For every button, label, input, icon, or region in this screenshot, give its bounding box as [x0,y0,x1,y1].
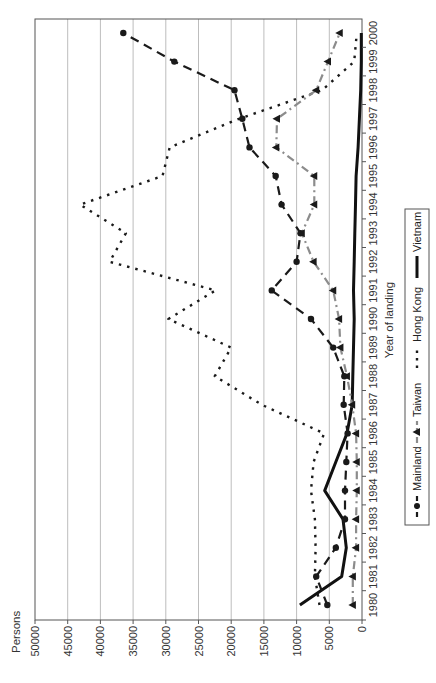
x-tick-label: 1993 [367,221,379,245]
x-tick-label: 1986 [367,421,379,445]
y-tick-label: 50000 [29,626,41,657]
data-point-marker [352,515,360,523]
x-tick-label: 1987 [367,393,379,417]
y-tick-label: 0 [356,626,368,632]
data-point-marker [330,344,336,350]
data-point-marker [324,602,330,608]
y-tick-label: 30000 [160,626,172,657]
y-axis-title: Persons [10,611,22,653]
x-tick-label: 1981 [367,564,379,588]
x-tick-label: 1996 [367,135,379,159]
rotated-line-chart: 1980198119821983198419851986198719881989… [0,0,436,683]
data-point-marker [297,230,303,236]
y-tick-label: 35000 [127,626,139,657]
x-tick-label: 1995 [367,164,379,188]
data-point-marker [231,87,237,93]
data-point-marker [272,115,280,123]
x-tick-label: 1983 [367,507,379,531]
data-point-marker [335,29,343,37]
x-tick-label: 1980 [367,593,379,617]
data-point-marker [342,487,348,493]
legend: Mainland Taiwan Hong Kong Vietnam [405,209,429,525]
x-tick-label: 1984 [367,478,379,502]
y-tick-label: 25000 [193,626,205,657]
series-layer [80,29,361,609]
x-tick-label: 1985 [367,450,379,474]
y-tick-label: 40000 [94,626,106,657]
data-point-marker [344,430,350,436]
data-point-marker [246,144,252,150]
x-axis-title: Year of landing [383,282,395,358]
x-tick-label: 1998 [367,78,379,102]
legend-vietnam-label: Vietnam [411,212,423,252]
data-point-marker [341,373,347,379]
x-tick-label: 1997 [367,107,379,131]
data-point-marker [308,316,314,322]
y-axis-ticks: 0500010000150002000025000300003500040000… [29,620,368,657]
data-point-marker [313,573,319,579]
y-tick-label: 15000 [258,626,270,657]
legend-taiwan-label: Taiwan [411,383,423,417]
x-tick-label: 1982 [367,536,379,560]
y-tick-label: 45000 [62,626,74,657]
data-point-marker [171,58,177,64]
x-tick-label: 1994 [367,192,379,216]
data-point-marker [269,287,275,293]
legend-hongkong-label: Hong Kong [411,287,423,342]
series-hong-kong [80,33,357,605]
x-tick-label: 1991 [367,278,379,302]
data-point-marker [340,402,346,408]
x-tick-label: 1999 [367,49,379,73]
legend-mainland-label: Mainland [411,446,423,491]
data-point-marker [293,259,299,265]
data-point-marker [336,344,344,352]
x-tick-label: 1990 [367,307,379,331]
x-tick-label: 2000 [367,21,379,45]
x-tick-label: 1992 [367,250,379,274]
x-tick-label: 1988 [367,364,379,388]
y-tick-label: 5000 [323,626,335,650]
y-tick-label: 20000 [225,626,237,657]
data-point-marker [120,30,126,36]
data-point-marker [239,116,245,122]
x-tick-label: 1989 [367,335,379,359]
data-point-marker [343,459,349,465]
data-point-marker [272,173,278,179]
series-taiwan [272,29,360,609]
series-mainland [120,30,351,608]
y-tick-label: 10000 [291,626,303,657]
data-point-marker [278,201,284,207]
data-point-marker [342,516,348,522]
x-axis-ticks: 1980198119821983198419851986198719881989… [362,21,379,620]
data-point-marker [333,545,339,551]
